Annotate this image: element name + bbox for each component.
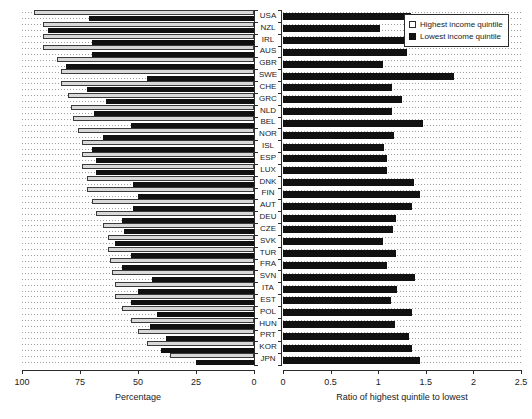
bar-lowest-quintile [106, 99, 254, 104]
bar-lowest-quintile [94, 111, 254, 116]
bar-ratio [283, 321, 395, 328]
country-axis-tick [254, 365, 258, 366]
country-label-prt: PRT [254, 331, 282, 339]
bar-ratio [283, 84, 392, 91]
country-axis-spine [281, 10, 282, 365]
bar-highest-quintile [115, 282, 254, 287]
bar-lowest-quintile [124, 229, 254, 234]
country-axis-tick [278, 365, 282, 366]
bar-lowest-quintile [48, 28, 254, 33]
country-label-irl: IRL [254, 36, 282, 44]
bar-highest-quintile [82, 164, 254, 169]
bar-ratio [283, 286, 397, 293]
bar-highest-quintile [61, 81, 254, 86]
axis-tick-label: 50 [133, 377, 143, 387]
bar-lowest-quintile [138, 194, 254, 199]
bar-highest-quintile [138, 329, 254, 334]
legend-item-highest-income-quintile: Highest income quintile [409, 19, 503, 30]
bar-lowest-quintile [131, 300, 254, 305]
bar-highest-quintile [34, 10, 254, 15]
bar-lowest-quintile [92, 147, 254, 152]
ratio-axis-title: Ratio of highest quintile to lowest [336, 392, 468, 402]
bar-ratio [283, 96, 402, 103]
bar-highest-quintile [43, 22, 254, 27]
bar-highest-quintile [108, 235, 254, 240]
bar-ratio [283, 309, 412, 316]
bar-highest-quintile [92, 199, 254, 204]
country-label-hun: HUN [254, 320, 282, 328]
bar-highest-quintile [82, 152, 254, 157]
axis-tick [331, 370, 332, 374]
legend-item-lowest-income-quintile: Lowest income quintile [409, 31, 503, 42]
axis-tick-label: 0.5 [324, 377, 337, 387]
bar-ratio [283, 238, 383, 245]
bar-highest-quintile [82, 140, 254, 145]
country-label-swe: SWE [254, 71, 282, 79]
legend: Highest income quintile Lowest income qu… [404, 14, 509, 47]
bar-ratio [283, 61, 383, 68]
bar-highest-quintile [43, 45, 254, 50]
bar-lowest-quintile [115, 241, 254, 246]
axis-tick [473, 370, 474, 374]
axis-tick [521, 370, 522, 374]
percentage-chart-plot-area [22, 10, 254, 365]
bar-ratio [283, 191, 420, 198]
bar-ratio [283, 155, 387, 162]
bar-lowest-quintile [131, 123, 254, 128]
axis-tick-label: 1.5 [420, 377, 433, 387]
bar-highest-quintile [147, 341, 254, 346]
country-label-gbr: GBR [254, 59, 282, 67]
country-label-esp: ESP [254, 154, 282, 162]
bar-lowest-quintile [103, 135, 254, 140]
axis-tick [22, 370, 23, 374]
bar-ratio [283, 108, 392, 115]
country-label-kor: KOR [254, 343, 282, 351]
bar-ratio [283, 167, 387, 174]
bar-ratio [283, 203, 412, 210]
country-label-est: EST [254, 296, 282, 304]
bar-highest-quintile [57, 57, 254, 62]
axis-tick-label: 75 [75, 377, 85, 387]
country-label-cze: CZE [254, 225, 282, 233]
country-label-fin: FIN [254, 189, 282, 197]
bar-ratio [283, 274, 415, 281]
country-label-axis: USANZLIRLAUSGBRSWECHEGRCNLDBELNORISLESPL… [254, 10, 282, 365]
country-label-svn: SVN [254, 272, 282, 280]
country-label-aus: AUS [254, 47, 282, 55]
bar-highest-quintile [71, 105, 254, 110]
country-label-ita: ITA [254, 284, 282, 292]
country-axis-spine [254, 10, 255, 365]
bar-ratio [283, 250, 396, 257]
bar-lowest-quintile [122, 265, 254, 270]
country-label-dnk: DNK [254, 178, 282, 186]
bar-highest-quintile [115, 294, 254, 299]
bar-ratio [283, 13, 411, 20]
country-label-isl: ISL [254, 142, 282, 150]
country-label-svk: SVK [254, 237, 282, 245]
bar-highest-quintile [131, 318, 254, 323]
bar-lowest-quintile [92, 52, 254, 57]
bar-highest-quintile [43, 34, 254, 39]
bar-highest-quintile [78, 128, 254, 133]
ratio-axis-line [283, 370, 521, 371]
bar-highest-quintile [87, 187, 254, 192]
bar-lowest-quintile [131, 253, 254, 258]
bar-highest-quintile [103, 223, 254, 228]
axis-tick-label: 2.5 [515, 377, 528, 387]
bar-highest-quintile [73, 116, 254, 121]
bar-ratio [283, 25, 380, 32]
axis-tick [426, 370, 427, 374]
axis-tick [283, 370, 284, 374]
axis-tick-label: 0 [251, 377, 256, 387]
country-label-tur: TUR [254, 249, 282, 257]
bar-highest-quintile [110, 258, 254, 263]
legend-label-highest: Highest income quintile [420, 20, 503, 29]
bar-highest-quintile [68, 93, 254, 98]
axis-tick-label: 1 [376, 377, 381, 387]
bar-highest-quintile [170, 353, 254, 358]
bar-lowest-quintile [66, 64, 254, 69]
bar-lowest-quintile [150, 324, 254, 329]
bar-lowest-quintile [122, 218, 254, 223]
ratio-chart-plot-area [283, 10, 521, 365]
bar-lowest-quintile [89, 16, 254, 21]
